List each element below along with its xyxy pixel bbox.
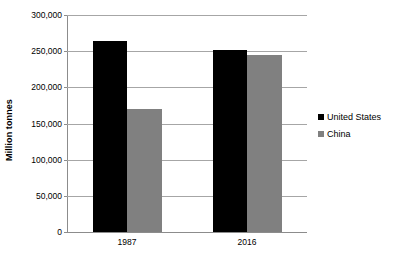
legend-label: United States [327, 112, 381, 122]
bar-1987-china [127, 109, 162, 232]
legend-swatch-icon [318, 114, 324, 120]
legend-label: China [327, 129, 351, 139]
legend: United StatesChina [318, 112, 381, 139]
bar-1987-united-states [93, 41, 128, 232]
gridline [67, 232, 307, 233]
legend-item[interactable]: United States [318, 112, 381, 122]
legend-item[interactable]: China [318, 129, 381, 139]
y-axis-title-label: Million tonnes [4, 99, 14, 161]
y-axis-title: Million tonnes [0, 0, 18, 259]
plot-area [67, 15, 307, 232]
y-axis-tick-label: 100,000 [31, 155, 62, 165]
bar-2016-united-states [213, 50, 248, 232]
y-axis-tick-label: 50,000 [36, 191, 62, 201]
y-axis-tick-label: 300,000 [31, 10, 62, 20]
legend-swatch-icon [318, 131, 324, 137]
y-axis-tick-label: 0 [57, 227, 62, 237]
bar-2016-china [247, 55, 282, 232]
x-axis-tick-label: 2016 [238, 237, 257, 247]
x-axis-tick-label: 1987 [118, 237, 137, 247]
y-axis-tick-label: 150,000 [31, 119, 62, 129]
y-axis-tick-label: 250,000 [31, 46, 62, 56]
y-axis-tick-label: 200,000 [31, 82, 62, 92]
gridline [67, 15, 307, 16]
bar-chart: Million tonnes 050,000100,000150,000200,… [0, 0, 408, 259]
